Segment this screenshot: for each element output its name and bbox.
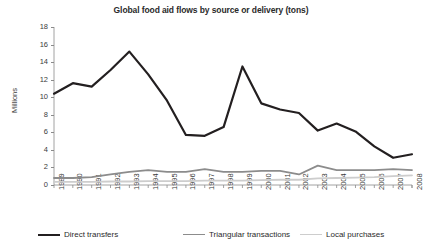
legend-swatch-icon [38,234,60,236]
legend-swatch-icon [183,234,205,235]
legend-item[interactable]: Local purchases [300,230,384,239]
series-line [54,175,412,182]
legend-swatch-icon [300,234,322,235]
legend-label: Direct transfers [64,230,118,239]
legend-label: Triangular transactions [209,230,290,239]
legend-label: Local purchases [326,230,384,239]
legend-item[interactable]: Direct transfers [38,230,118,239]
chart-legend: Direct transfersTriangular transactionsL… [0,228,422,244]
legend-item[interactable]: Triangular transactions [183,230,290,239]
series-line [54,52,412,158]
series-line [54,166,412,178]
